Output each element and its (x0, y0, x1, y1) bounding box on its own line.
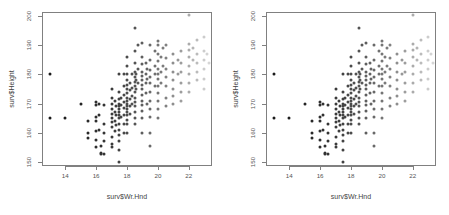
data-point (110, 102, 113, 105)
data-point (350, 92, 353, 95)
data-point (99, 144, 102, 147)
data-point (203, 67, 206, 70)
data-point (411, 56, 414, 59)
x-tick-label: 18 (348, 173, 355, 179)
data-point (113, 119, 116, 122)
data-point (365, 131, 368, 134)
data-point (380, 44, 383, 47)
data-point (326, 140, 329, 143)
data-point (102, 122, 105, 125)
data-point (141, 131, 144, 134)
data-point (149, 115, 152, 118)
data-point (133, 101, 136, 104)
left-y-axis-title: surv$Height (8, 70, 15, 107)
data-point (160, 82, 163, 85)
data-point (370, 102, 373, 105)
data-point (359, 73, 362, 76)
data-point (401, 73, 404, 76)
data-point (149, 58, 152, 61)
x-tick (189, 166, 190, 170)
data-point (156, 99, 159, 102)
x-tick (96, 166, 97, 170)
data-point (160, 56, 163, 59)
data-point (141, 41, 144, 44)
data-point (357, 122, 360, 125)
data-point (87, 119, 90, 122)
data-point (149, 69, 152, 72)
data-point (141, 103, 144, 106)
data-point (118, 149, 121, 152)
data-point (404, 70, 407, 73)
data-point (365, 56, 368, 59)
data-point (404, 99, 407, 102)
x-tick-label: 14 (62, 173, 69, 179)
y-tick-label: 180 (26, 69, 32, 79)
data-point (419, 61, 422, 64)
right-panel: 150160170180190200 1416182022 surv$Wr.Hn… (225, 0, 449, 215)
data-point (334, 102, 337, 105)
data-point (411, 90, 414, 93)
data-point (342, 122, 345, 125)
data-point (388, 67, 391, 70)
y-tick-label: 170 (26, 98, 32, 108)
data-point (411, 13, 414, 16)
y-tick-label: 200 (250, 11, 256, 21)
data-point (342, 134, 345, 137)
data-point (404, 61, 407, 64)
data-point (396, 70, 399, 73)
data-point (357, 101, 360, 104)
data-point (322, 102, 325, 105)
data-point (380, 60, 383, 63)
y-tick-label: 160 (26, 127, 32, 137)
x-tick (158, 166, 159, 170)
data-point (373, 69, 376, 72)
data-point (368, 82, 371, 85)
data-point (187, 13, 190, 16)
data-point (207, 61, 210, 64)
data-point (192, 47, 195, 50)
data-point (360, 67, 363, 70)
data-point (95, 138, 98, 141)
data-point (180, 70, 183, 73)
data-point (427, 58, 430, 61)
data-point (126, 92, 129, 95)
x-tick-label: 16 (93, 173, 100, 179)
data-point (141, 117, 144, 120)
data-point (126, 73, 129, 76)
data-point (427, 35, 430, 38)
data-point (172, 61, 175, 64)
data-point (319, 146, 322, 149)
data-point (126, 118, 129, 121)
data-point (156, 60, 159, 63)
data-point (102, 140, 105, 143)
data-point (373, 99, 376, 102)
data-point (187, 56, 190, 59)
data-point (129, 98, 132, 101)
y-tick-label: 150 (250, 156, 256, 166)
data-point (388, 96, 391, 99)
data-point (160, 70, 163, 73)
y-tick (262, 162, 266, 163)
data-point (172, 102, 175, 105)
y-tick (38, 133, 42, 134)
data-point (404, 82, 407, 85)
data-point (133, 96, 136, 99)
data-point (135, 88, 138, 91)
data-point (311, 119, 314, 122)
data-point (180, 61, 183, 64)
data-point (357, 90, 360, 93)
data-point (187, 48, 190, 51)
data-point (337, 130, 340, 133)
x-tick-label: 18 (124, 173, 131, 179)
data-point (164, 105, 167, 108)
x-tick-label: 14 (286, 173, 293, 179)
data-point (350, 56, 353, 59)
data-point (411, 42, 414, 45)
data-point (144, 82, 147, 85)
data-point (360, 82, 363, 85)
data-point (180, 50, 183, 53)
data-point (350, 131, 353, 134)
data-point (98, 114, 101, 117)
data-point (334, 88, 337, 91)
data-point (334, 125, 337, 128)
